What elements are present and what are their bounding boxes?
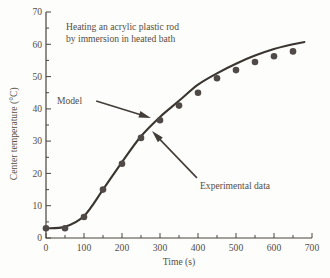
x-tick-label: 500 — [229, 242, 244, 253]
annotation-arrow-line — [158, 138, 197, 178]
chart-title: Heating an acrylic plastic rod by immers… — [66, 21, 179, 44]
experimental-point — [138, 135, 145, 142]
y-tick-label: 60 — [32, 39, 42, 50]
y-axis-label: Center temperature (°C) — [8, 62, 20, 206]
experimental-point — [176, 102, 183, 109]
chart-title-line1: Heating an acrylic plastic rod — [66, 21, 179, 33]
experimental-point — [271, 53, 278, 60]
experimental-point — [214, 75, 221, 82]
x-tick-label: 700 — [305, 242, 320, 253]
y-tick-label: 50 — [32, 71, 42, 82]
chart-title-line2: by immersion in heated bath — [66, 33, 179, 45]
x-tick-label: 100 — [77, 242, 92, 253]
experimental-point — [119, 160, 126, 167]
experimental-point — [43, 225, 50, 232]
experimental-point — [233, 67, 240, 74]
annotation-experimental-label: Experimental data — [200, 180, 270, 192]
y-tick-label: 0 — [37, 232, 42, 243]
annotation-arrow-line — [96, 101, 142, 115]
y-tick-label: 40 — [32, 103, 42, 114]
x-axis-label: Time (s) — [46, 256, 312, 268]
y-tick-label: 30 — [32, 135, 42, 146]
x-tick-label: 600 — [267, 242, 282, 253]
x-tick-label: 400 — [191, 242, 206, 253]
axes — [46, 12, 312, 238]
experimental-point — [157, 117, 164, 124]
experimental-point — [81, 214, 88, 221]
chart-figure: 0100200300400500600700010203040506070 He… — [0, 0, 330, 278]
y-tick-label: 70 — [32, 6, 42, 17]
annotation-model-label: Model — [57, 95, 82, 107]
y-tick-label: 10 — [32, 200, 42, 211]
experimental-point — [100, 186, 107, 193]
x-tick-label: 200 — [115, 242, 130, 253]
x-tick-label: 0 — [44, 242, 49, 253]
experimental-point — [195, 89, 202, 96]
experimental-point — [62, 225, 69, 232]
experimental-point — [252, 59, 259, 66]
model-curve — [46, 42, 304, 228]
y-tick-label: 20 — [32, 168, 42, 179]
experimental-point — [290, 48, 297, 55]
x-tick-label: 300 — [153, 242, 168, 253]
annotation-arrowhead — [138, 111, 151, 118]
